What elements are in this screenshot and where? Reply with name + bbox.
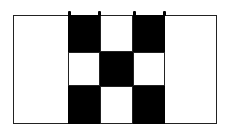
grid-cell-black <box>133 86 165 124</box>
grid-cell-white <box>100 86 133 124</box>
top-tick-mark <box>98 11 101 16</box>
top-tick-mark <box>163 11 166 16</box>
grid-cell-black <box>100 52 133 86</box>
grid-cell-black <box>68 15 100 52</box>
grid-cell-white <box>100 15 133 52</box>
top-tick-mark <box>133 11 136 16</box>
top-tick-mark <box>68 11 71 16</box>
grid-cell-black <box>68 86 100 124</box>
grid-cell-black <box>133 15 165 52</box>
grid-cell-white <box>133 52 165 86</box>
grid-cell-white <box>68 52 100 86</box>
